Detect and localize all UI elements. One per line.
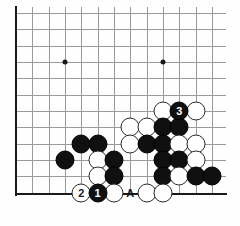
go-board[interactable]: 321A	[0, 0, 240, 226]
star-point-1	[160, 59, 165, 64]
board-edge-left	[15, 6, 17, 196]
grid-line-vertical	[81, 7, 82, 193]
stone-white-30[interactable]	[153, 183, 172, 202]
grid-line-horizontal	[16, 13, 226, 14]
go-diagram: 321A	[0, 0, 240, 226]
grid-line-vertical	[130, 7, 131, 193]
board-marker-A: A	[126, 187, 134, 198]
grid-line-vertical	[147, 7, 148, 193]
stone-black-25[interactable]	[202, 167, 221, 186]
grid-line-horizontal	[16, 78, 226, 79]
move-number-1: 1	[89, 184, 106, 201]
grid-line-horizontal	[16, 46, 226, 47]
stone-black-3[interactable]: 3	[170, 101, 189, 120]
stone-white-1[interactable]	[186, 101, 205, 120]
grid-line-horizontal	[16, 95, 226, 96]
stone-white-28[interactable]	[104, 183, 123, 202]
stone-black-1[interactable]: 1	[88, 183, 107, 202]
stone-black-14[interactable]	[55, 150, 74, 169]
star-point-0	[62, 59, 67, 64]
move-number-3: 3	[171, 102, 188, 119]
grid-line-vertical	[212, 7, 213, 193]
grid-line-vertical	[32, 7, 33, 193]
grid-line-horizontal	[16, 29, 226, 30]
grid-line-horizontal	[16, 62, 226, 63]
grid-line-vertical	[49, 7, 50, 193]
